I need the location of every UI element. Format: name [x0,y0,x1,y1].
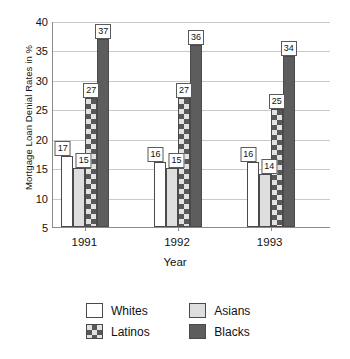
x-axis-tick-label-1992: 1992 [164,236,190,248]
bar-value-label: 17 [55,141,71,156]
bar-whites-1993[interactable]: 16 [247,162,259,227]
y-axis-tick-label: 5 [42,222,48,234]
y-axis-tick-label: 35 [36,45,48,57]
bar-value-label: 16 [148,147,164,162]
bar-value-label: 15 [76,153,92,168]
legend-item-asians[interactable]: Asians [189,300,276,321]
x-axis-tick-label-1993: 1993 [257,236,283,248]
bar-value-label: 37 [95,24,111,39]
bar-blacks-1992[interactable]: 36 [190,45,202,227]
y-axis-tick-label: 25 [36,104,48,116]
bar-whites-1991[interactable]: 17 [61,156,73,227]
bar-asians-1992[interactable]: 15 [166,168,178,227]
legend-item-latinos[interactable]: Latinos [86,321,175,342]
legend-swatch-whites [86,303,103,318]
bar-value-label: 36 [188,30,204,45]
bar-blacks-1993[interactable]: 34 [283,56,295,227]
bar-group: 16152736 [154,22,202,227]
y-axis-tick-label: 15 [36,163,48,175]
chart-legend: WhitesAsiansLatinosBlacks [86,300,276,342]
bar-chart: Mortgage Loan Denial Rates in % 51015202… [0,0,350,359]
legend-swatch-latinos [86,324,103,339]
bar-value-label: 14 [261,159,277,174]
bar-group: 17152737 [61,22,109,227]
legend-swatch-asians [189,303,206,318]
bar-value-label: 34 [281,41,297,56]
bar-value-label: 15 [168,153,184,168]
bar-whites-1992[interactable]: 16 [154,162,166,227]
legend-label: Blacks [214,325,249,339]
plot-area: 510152025303540171527371615273616142534 [52,22,330,228]
y-axis-tick-label: 30 [36,75,48,87]
bar-asians-1991[interactable]: 15 [73,168,85,227]
bar-value-label: 25 [269,94,285,109]
y-axis-tick-label: 40 [36,16,48,28]
x-axis-tick-mark [178,227,179,231]
bar-asians-1993[interactable]: 14 [259,174,271,227]
legend-item-whites[interactable]: Whites [86,300,175,321]
bar-blacks-1991[interactable]: 37 [97,39,109,227]
legend-label: Whites [111,304,148,318]
bar-value-label: 27 [83,83,99,98]
x-axis-title: Year [0,256,350,268]
x-axis-tick-mark [271,227,272,231]
legend-label: Asians [214,304,250,318]
y-axis-tick-label: 20 [36,134,48,146]
bar-value-label: 27 [176,83,192,98]
legend-item-blacks[interactable]: Blacks [189,321,276,342]
x-axis-tick-label-1991: 1991 [72,236,98,248]
legend-label: Latinos [111,325,150,339]
bar-value-label: 16 [240,147,256,162]
y-axis-tick-label: 10 [36,193,48,205]
legend-swatch-blacks [189,324,206,339]
bar-group: 16142534 [247,22,295,227]
y-axis-title: Mortgage Loan Denial Rates in % [23,18,34,218]
x-axis-tick-mark [85,227,86,231]
